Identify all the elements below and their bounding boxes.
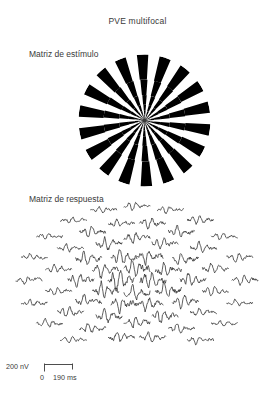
response-trace — [227, 299, 253, 306]
response-trace — [187, 337, 213, 345]
response-trace — [168, 324, 194, 333]
response-trace — [46, 264, 72, 272]
stimulus-svg — [78, 54, 211, 187]
response-trace — [111, 299, 137, 314]
response-trace — [93, 265, 119, 279]
response-trace — [91, 206, 117, 213]
response-trace — [124, 284, 150, 300]
stimulus-dartboard — [78, 54, 211, 187]
response-trace — [108, 270, 134, 291]
response-trace — [137, 251, 163, 265]
response-trace — [140, 272, 166, 288]
response-trace — [57, 244, 83, 253]
response-trace — [61, 336, 87, 343]
response-trace — [80, 324, 106, 333]
response-trace — [155, 282, 181, 297]
response-trace — [191, 241, 217, 253]
response-trace — [76, 294, 102, 304]
response-trace — [191, 308, 217, 315]
response-trace — [187, 216, 213, 225]
response-trace — [37, 318, 63, 327]
scale-amplitude-label: 200 nV — [6, 362, 29, 371]
mfvep-figure: PVE multifocal Matriz de estímulo Matriz… — [0, 0, 275, 394]
response-trace — [124, 317, 150, 328]
response-trace — [37, 234, 63, 240]
scale-time-end-label: 190 ms — [53, 373, 77, 382]
response-trace — [140, 218, 166, 229]
response-trace — [227, 253, 253, 262]
response-trace — [111, 250, 137, 263]
scale-bar-svg: 200 nV 0 190 ms — [6, 358, 116, 388]
response-trace — [124, 202, 150, 210]
response-trace — [232, 275, 258, 286]
response-svg — [0, 198, 275, 356]
response-trace — [137, 298, 163, 312]
response-trace — [152, 238, 178, 249]
scale-bar: 200 nV 0 190 ms — [6, 358, 116, 388]
response-trace — [108, 219, 134, 226]
response-trace — [80, 226, 106, 237]
response-trace — [124, 233, 150, 244]
response-trace — [61, 217, 87, 223]
response-trace — [96, 308, 122, 322]
response-trace — [157, 207, 183, 214]
response-trace — [168, 225, 194, 237]
response-trace — [152, 311, 178, 323]
response-trace — [21, 299, 47, 305]
scale-bar-glyph — [45, 364, 73, 372]
response-trace — [68, 274, 94, 287]
page-title: PVE multifocal — [0, 16, 275, 26]
response-trace — [211, 233, 237, 239]
response-trace-array — [0, 198, 275, 356]
response-trace — [202, 286, 228, 295]
response-trace — [211, 321, 237, 327]
response-trace — [46, 288, 72, 295]
response-trace — [173, 254, 199, 265]
response-trace — [202, 263, 228, 273]
response-trace — [16, 277, 42, 284]
response-trace — [57, 307, 83, 317]
response-trace — [21, 253, 47, 259]
response-trace — [140, 332, 166, 342]
response-trace — [76, 251, 102, 264]
response-trace — [108, 333, 134, 342]
scale-time-start-label: 0 — [40, 373, 44, 382]
response-trace — [96, 237, 122, 250]
response-trace — [180, 273, 206, 285]
response-trace — [173, 295, 199, 309]
